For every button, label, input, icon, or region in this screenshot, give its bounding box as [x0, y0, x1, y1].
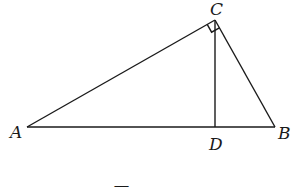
triangle-diagram: C A D B 图 — [0, 0, 292, 187]
vertex-label-a: A — [8, 122, 22, 142]
vertex-label-d: D — [208, 134, 223, 154]
vertex-label-c: C — [210, 0, 223, 19]
figure-caption: 图 — [113, 184, 130, 187]
segment-ac — [27, 20, 215, 127]
segment-bc — [215, 20, 275, 127]
vertex-label-b: B — [277, 123, 291, 143]
